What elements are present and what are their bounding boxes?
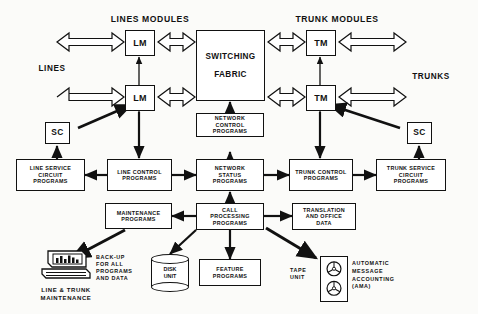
call-processing-programs[interactable]: CALL PROCESSING PROGRAMS (196, 203, 264, 230)
lines-module-bottom-label: LM (133, 93, 147, 104)
call-processing-to-tape-arrow (266, 228, 316, 258)
call-processing-programs-label: CALL PROCESSING PROGRAMS (210, 207, 249, 226)
maintenance-programs[interactable]: MAINTENANCE PROGRAMS (105, 203, 172, 229)
network-status-programs[interactable]: NETWORK STATUS PROGRAMS (196, 159, 264, 191)
feature-programs[interactable]: FEATURE PROGRAMS (199, 259, 261, 286)
lines-outer-arrow-bottom (57, 88, 124, 106)
line-trunk-maintenance-caption: LINE & TRUNK MAINTENANCE (20, 287, 112, 303)
trunk-module-bottom[interactable]: TM (306, 85, 336, 111)
switching-fabric-line1: SWITCHING (206, 52, 256, 62)
feature-programs-label: FEATURE PROGRAMS (213, 266, 248, 279)
scan-control-left[interactable]: SC (45, 122, 70, 144)
trunk-modules-label: TRUNK MODULES (262, 14, 412, 24)
disk-unit-top-ellipse (151, 254, 189, 264)
maintenance-programs-label: MAINTENANCE PROGRAMS (117, 210, 161, 223)
network-status-programs-label: NETWORK STATUS PROGRAMS (213, 165, 248, 184)
scan-control-right[interactable]: SC (407, 122, 432, 144)
trunks-outer-arrow-bottom (339, 88, 406, 106)
lines-label: LINES (22, 64, 82, 73)
disk-unit-bottom-ellipse (151, 282, 189, 292)
computer-terminal-icon (36, 249, 94, 283)
maintenance-terminal-icon[interactable] (36, 249, 94, 283)
line-control-programs-label: LINE CONTROL PROGRAMS (117, 169, 162, 182)
line-service-circuit-programs-label: LINE SERVICE CIRCUIT PROGRAMS (30, 165, 72, 184)
switching-fabric-line2: FABRIC (214, 70, 247, 80)
lines-module-bottom[interactable]: LM (125, 85, 155, 111)
trunk-module-top[interactable]: TM (306, 30, 336, 56)
trunk-control-programs-label: TRUNK CONTROL PROGRAMS (295, 169, 347, 182)
trunks-label: TRUNKS (400, 72, 462, 81)
block-diagram: LINES MODULES TRUNK MODULES LINES TRUNKS… (0, 0, 478, 314)
lines-outer-arrow-top (57, 33, 124, 51)
translation-and-office-data[interactable]: TRANSLATION AND OFFICE DATA (292, 203, 356, 230)
backup-caption: BACK-UP FOR ALL PROGRAMS AND DATA (96, 254, 152, 282)
switching-fabric[interactable]: SWITCHING FABRIC (196, 30, 265, 101)
trunks-outer-arrow-top (339, 33, 406, 51)
line-control-programs[interactable]: LINE CONTROL PROGRAMS (107, 159, 172, 191)
trunk-service-circuit-programs[interactable]: TRUNK SERVICE CIRCUIT PROGRAMS (376, 159, 446, 191)
lines-modules-label: LINES MODULES (80, 14, 220, 24)
call-processing-disk-link (170, 230, 196, 254)
tape-reels-icon (321, 257, 347, 301)
network-control-programs[interactable]: NETWORK CONTROL PROGRAMS (196, 113, 264, 137)
lines-module-top-label: LM (133, 38, 147, 49)
trunk-control-programs[interactable]: TRUNK CONTROL PROGRAMS (289, 159, 353, 191)
scan-control-left-label: SC (51, 128, 63, 138)
network-control-programs-label: NETWORK CONTROL PROGRAMS (213, 115, 248, 134)
disk-unit[interactable]: DISK UNIT (151, 254, 189, 292)
trunk-module-bottom-label: TM (314, 93, 328, 104)
line-service-circuit-programs[interactable]: LINE SERVICE CIRCUIT PROGRAMS (16, 159, 85, 191)
disk-unit-label: DISK UNIT (151, 266, 189, 280)
translation-and-office-data-label: TRANSLATION AND OFFICE DATA (303, 207, 345, 226)
fabric-tm-arrow-top (268, 33, 305, 51)
lines-module-top[interactable]: LM (125, 30, 155, 56)
scan-control-right-label: SC (413, 128, 425, 138)
sc-right-to-tm-arrow (330, 105, 400, 128)
trunk-module-top-label: TM (314, 38, 328, 49)
lm-fabric-arrow-top (158, 33, 195, 51)
ama-caption: AUTOMATIC MESSAGE ACCOUNTING (AMA) (352, 260, 432, 291)
tape-unit-label: TAPE UNIT (290, 267, 320, 281)
sc-left-to-lm-arrow (78, 105, 131, 128)
trunk-service-circuit-programs-label: TRUNK SERVICE CIRCUIT PROGRAMS (387, 165, 435, 184)
fabric-tm-arrow-bottom (268, 88, 305, 106)
lm-fabric-arrow-bottom (158, 88, 195, 106)
tape-unit-icon[interactable] (320, 256, 348, 302)
